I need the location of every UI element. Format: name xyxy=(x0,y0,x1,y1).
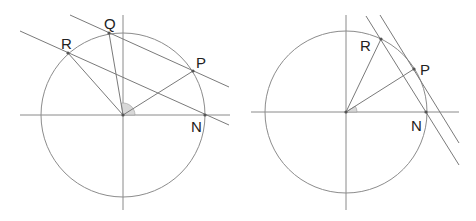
right-diagram: P R N xyxy=(251,15,459,210)
right-point-N xyxy=(424,110,427,113)
left-radius-P xyxy=(123,71,193,115)
right-label-N: N xyxy=(411,117,422,134)
left-line-QP xyxy=(70,15,229,87)
left-label-N: N xyxy=(191,118,202,135)
left-radius-R xyxy=(68,53,123,115)
right-label-P: P xyxy=(420,61,430,78)
right-point-P xyxy=(412,67,415,70)
left-label-Q: Q xyxy=(104,15,116,32)
left-label-R: R xyxy=(61,35,72,52)
left-point-N xyxy=(203,113,206,116)
left-point-P xyxy=(191,69,194,72)
right-point-R xyxy=(379,37,382,40)
left-label-P: P xyxy=(196,54,206,71)
left-diagram: P Q R N xyxy=(20,15,230,210)
left-origin-point xyxy=(121,113,124,116)
right-origin-point xyxy=(344,110,347,113)
right-label-R: R xyxy=(360,37,371,54)
diagram-canvas: P Q R N P R N xyxy=(0,0,476,221)
left-radius-Q xyxy=(109,33,123,115)
